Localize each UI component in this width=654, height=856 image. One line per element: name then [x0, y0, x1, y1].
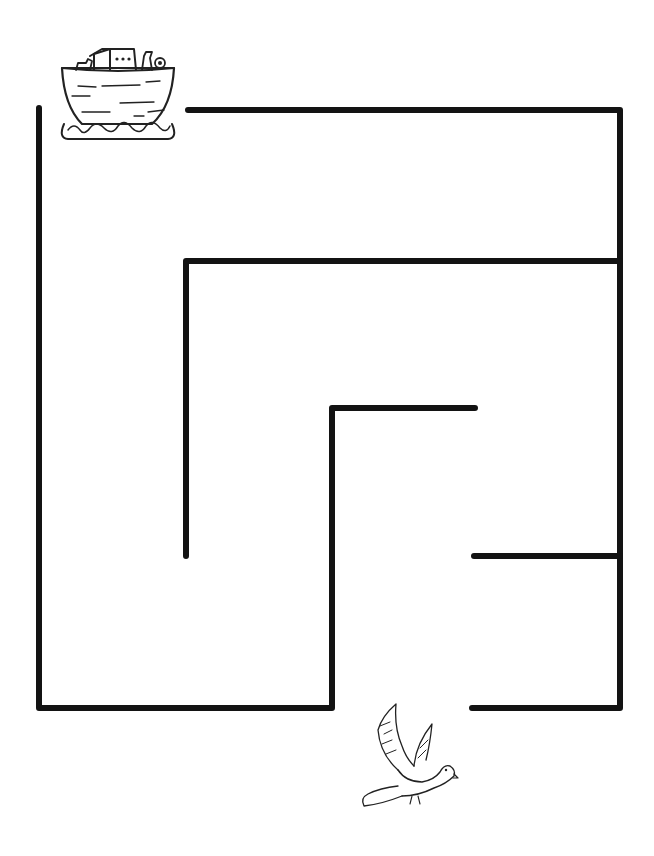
maze-board[interactable] [0, 0, 654, 856]
maze-walls [39, 108, 620, 708]
dove-icon [363, 704, 458, 806]
left-outer-wall [39, 108, 475, 708]
ark-icon [62, 49, 175, 139]
